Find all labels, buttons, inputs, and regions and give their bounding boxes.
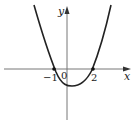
origin-label: 0 (61, 70, 67, 81)
x-intercept-label-2: 2 (91, 72, 97, 83)
y-axis-arrow-icon (65, 6, 70, 14)
y-axis-label: y (57, 5, 65, 18)
parabola-graph: y x 0 −1 2 (0, 0, 134, 123)
x-intercept-label-minus-1: −1 (43, 72, 58, 83)
root-point-minus-1 (52, 67, 56, 71)
x-axis-label: x (124, 70, 131, 83)
root-point-2 (91, 67, 95, 71)
